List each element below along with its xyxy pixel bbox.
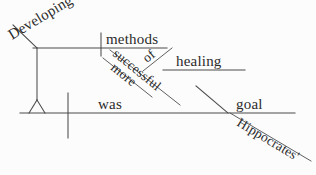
word-goal: goal	[236, 96, 263, 112]
sentence-diagram-graphic: Developing methods of healing successful…	[0, 0, 316, 175]
gerund-stand-left-leg-line	[29, 100, 37, 113]
word-healing: healing	[176, 53, 222, 69]
word-hippocrates: Hippocrates'	[234, 115, 302, 164]
word-developing: Developing	[5, 0, 75, 43]
word-methods: methods	[106, 31, 158, 47]
word-was: was	[98, 96, 122, 112]
gerund-stand-right-leg-line	[37, 100, 45, 113]
word-of: of	[139, 46, 158, 65]
goal-complement-slant-line	[196, 86, 228, 113]
sentence-diagram-canvas: Developing methods of healing successful…	[0, 0, 316, 175]
